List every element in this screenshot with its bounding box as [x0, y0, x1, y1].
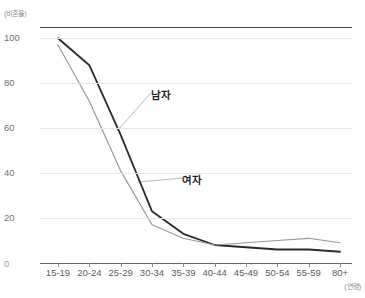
x-tick-label: 15-19 [46, 267, 70, 278]
x-tick-label: 25-29 [109, 267, 133, 278]
plot-area [40, 27, 352, 263]
x-tick-label: 55-59 [297, 267, 321, 278]
series-label-여자: 여자 [182, 172, 202, 187]
x-tick-mark [246, 263, 247, 267]
x-tick-label: 35-39 [171, 267, 195, 278]
grid-line [40, 38, 352, 39]
line-chart: (비혼율) 100806040200 15-1920-2425-2930-343… [0, 0, 365, 298]
x-tick-label: 80+ [332, 267, 348, 278]
x-tick-mark [340, 263, 341, 267]
x-tick-label: 40-44 [203, 267, 227, 278]
x-tick-mark [183, 263, 184, 267]
x-tick-mark [152, 263, 153, 267]
x-axis-unit-label: (연령) [344, 281, 361, 291]
y-tick-label: 100 [4, 32, 38, 43]
x-tick-label: 20-24 [77, 267, 101, 278]
x-tick-mark [58, 263, 59, 267]
series-lines [40, 27, 352, 263]
y-tick-label: 20 [4, 212, 38, 223]
y-tick-label: 80 [4, 77, 38, 88]
y-axis-unit-label: (비혼율) [4, 8, 27, 18]
grid-line [40, 83, 352, 84]
annotation-leader-line [118, 93, 151, 130]
x-tick-mark [277, 263, 278, 267]
y-tick-label: 60 [4, 122, 38, 133]
x-tick-label: 50-54 [265, 267, 289, 278]
series-line-여자 [58, 45, 340, 245]
x-tick-mark [121, 263, 122, 267]
x-tick-label: 45-49 [234, 267, 258, 278]
y-tick-label: 40 [4, 167, 38, 178]
grid-line [40, 128, 352, 129]
x-tick-mark [215, 263, 216, 267]
series-line-남자 [58, 38, 340, 252]
x-axis-line [40, 263, 352, 264]
annotation-leader-line [138, 178, 182, 182]
y-tick-label-zero: 0 [4, 258, 38, 269]
grid-line [40, 218, 352, 219]
x-tick-mark [309, 263, 310, 267]
x-tick-mark [89, 263, 90, 267]
x-tick-label: 30-34 [140, 267, 164, 278]
series-label-남자: 남자 [151, 87, 171, 102]
